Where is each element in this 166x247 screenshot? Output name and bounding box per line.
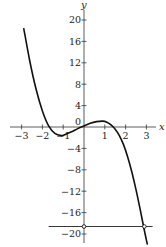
function-graph: xy −3−2−1123201612840−4−8−12−16−20 [0, 0, 166, 247]
y-tick-label: 20 [69, 14, 81, 25]
axes: xy [10, 0, 165, 243]
y-axis-label: y [80, 0, 87, 10]
open-point-marker [82, 225, 86, 229]
y-tick-label: 0 [75, 116, 81, 127]
y-tick-label: 12 [69, 57, 81, 68]
x-tick-label: 3 [143, 130, 149, 141]
x-tick-label: −2 [35, 130, 49, 141]
y-tick-label: 16 [69, 36, 81, 47]
y-tick-label: 8 [75, 79, 81, 90]
open-point-marker [143, 225, 147, 229]
y-tick-label: −12 [61, 186, 81, 197]
y-tick-label: −16 [61, 207, 81, 218]
x-tick-label: 1 [102, 130, 108, 141]
y-tick-label: −4 [67, 143, 81, 154]
y-tick-label: 4 [75, 100, 81, 111]
y-tick-label: −8 [67, 164, 81, 175]
x-axis-label: x [159, 121, 165, 132]
x-tick-label: 2 [123, 130, 129, 141]
x-tick-label: −3 [15, 130, 29, 141]
y-tick-label: −20 [61, 228, 81, 239]
